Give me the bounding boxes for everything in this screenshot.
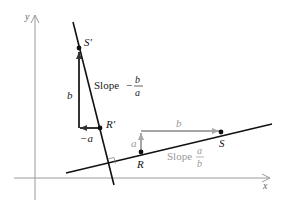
label-s-prime: S′ <box>84 36 93 48</box>
slope-label-shallow: Slope a b <box>167 145 204 169</box>
x-axis-label: x <box>262 180 268 191</box>
svg-text:Slope: Slope <box>94 79 119 91</box>
label-r-prime: R′ <box>105 118 116 130</box>
point-s <box>219 130 224 135</box>
slope-label-steep: Slope − b a <box>94 74 143 98</box>
label-vector-a-shallow: a <box>131 137 137 149</box>
label-r: R <box>136 158 144 170</box>
svg-text:b: b <box>135 74 140 85</box>
svg-text:Slope: Slope <box>167 150 192 162</box>
point-r-prime <box>98 126 103 131</box>
svg-text:−: − <box>126 79 132 91</box>
perpendicular-slopes-diagram: y x S′ R′ R S b −a a b Slope − b a Slope… <box>0 0 283 207</box>
point-s-prime <box>77 46 82 51</box>
y-axis-label: y <box>24 11 30 22</box>
point-r <box>139 150 144 155</box>
svg-text:a: a <box>135 87 140 98</box>
label-vector-b-steep: b <box>67 89 73 101</box>
svg-text:b: b <box>197 158 202 169</box>
label-s: S <box>219 137 225 149</box>
svg-text:a: a <box>197 145 202 156</box>
label-vector-b-shallow: b <box>176 117 182 129</box>
label-vector-neg-a: −a <box>80 132 93 144</box>
